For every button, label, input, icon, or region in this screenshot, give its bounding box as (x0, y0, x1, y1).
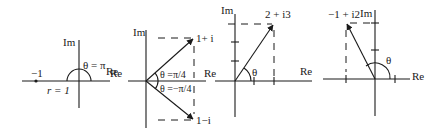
im-axis-label: Im (133, 26, 146, 38)
angle-label: θ (386, 54, 391, 66)
point-label-1-plus-i: 1+ i (196, 32, 214, 44)
angle-label: θ (252, 66, 257, 78)
angle-label-pos: θ =π/4 (160, 69, 186, 80)
angle-label: θ = π (83, 59, 106, 71)
angle-arc (244, 68, 251, 81)
angle-label-neg: θ =−π/4 (160, 83, 191, 94)
point-marker (34, 79, 37, 82)
radius-label: r = 1 (47, 84, 70, 96)
re-axis-label-left: Re (110, 67, 122, 79)
re-axis-label: Re (412, 70, 424, 82)
re-axis-label: Re (300, 65, 312, 77)
panel-two-plus-i3: Im Re 2 + i3 θ (215, 4, 312, 117)
vector-minus-1-plus-i2 (347, 24, 375, 79)
im-axis-label: Im (360, 7, 373, 19)
im-axis-label: Im (63, 36, 76, 48)
panel-one-plus-minus-i: Re Im Re 1+ i 1−i θ =π/4 θ =−π/4 (110, 26, 216, 128)
complex-plane-diagrams: Im θ = π Re −1 r = 1 Re Im Re 1+ i 1−i θ… (0, 0, 438, 136)
im-axis-label: Im (221, 4, 234, 16)
point-label: −1 (31, 67, 43, 79)
point-label: −1 + i2 (328, 8, 360, 20)
point-label: 2 + i3 (265, 8, 291, 20)
panel-minus-one: Im θ = π Re −1 r = 1 (22, 36, 118, 108)
re-axis-label: Re (204, 67, 216, 79)
point-label-1-minus-i: 1−i (196, 114, 211, 126)
panel-minus-one-plus-i2: Im Re −1 + i2 θ (323, 7, 424, 116)
